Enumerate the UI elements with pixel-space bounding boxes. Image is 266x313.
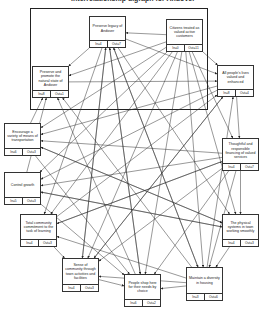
arrow-lives-to-services — [237, 97, 240, 138]
arrow-lives-to-growth — [41, 90, 217, 179]
in-count: In=3 — [187, 294, 204, 300]
arrow-citizens-to-learning — [51, 52, 172, 214]
in-count: In=0 — [167, 45, 184, 51]
node-label: All people's lives valued and enhanced — [218, 66, 253, 89]
node-citizens[interactable]: Citizens treated as valued active custom… — [166, 19, 203, 52]
node-growth[interactable]: Control growth In=5 Out=3 — [4, 172, 41, 205]
node-shop[interactable]: People shop here for their needs by choi… — [124, 274, 161, 307]
node-housing[interactable]: Maintain a diversity in housing In=3 Out… — [186, 267, 223, 301]
in-count: In=6 — [125, 300, 142, 306]
arrow-shop-to-natural — [58, 98, 136, 274]
node-services[interactable]: Thoughtful and responsible financing of … — [222, 138, 259, 171]
node-label: Preserve and promote the natural state o… — [33, 67, 68, 90]
node-counts: In=4 Out=3 — [63, 284, 98, 291]
node-counts: In=6 Out=2 — [125, 299, 160, 306]
node-counts: In=3 Out=6 — [187, 293, 222, 300]
node-counts: In=8 Out=4 — [218, 89, 253, 96]
arrow-natural-to-lives — [69, 81, 217, 82]
out-count: Out=7 — [240, 164, 258, 170]
arrow-citizens-to-shop — [145, 52, 182, 274]
node-label: Preserve legacy of Andover — [90, 17, 125, 40]
in-count: In=4 — [223, 164, 240, 170]
out-count: Out=2 — [142, 300, 160, 306]
in-count: In=5 — [5, 198, 22, 204]
arrow-housing-to-natural — [63, 98, 192, 267]
node-counts: In=4 Out=7 — [90, 40, 125, 47]
in-count: In=4 — [90, 41, 107, 47]
arrow-housing-to-legacy — [114, 48, 198, 267]
node-label: Thoughtful and responsible financing of … — [223, 139, 258, 163]
node-counts: In=4 Out=3 — [21, 239, 56, 246]
out-count: Out=3 — [22, 149, 40, 155]
node-counts: In=8 Out=1 — [33, 90, 68, 97]
out-count: Out=3 — [80, 285, 98, 291]
arrow-learning-to-lives — [57, 95, 217, 216]
out-count: Out=3 — [38, 240, 56, 246]
out-count: Out=1 — [50, 91, 68, 97]
in-count: In=8 — [33, 91, 50, 97]
out-count: Out=3 — [240, 240, 258, 246]
arrow-citizens-to-community — [88, 52, 177, 258]
out-count: Out=11 — [184, 45, 202, 51]
in-count: In=8 — [218, 90, 235, 96]
arrow-services-to-transport — [41, 141, 222, 153]
node-counts: In=4 Out=7 — [223, 163, 258, 170]
node-physical[interactable]: The physical systems in town working smo… — [222, 214, 259, 247]
node-label: People shop here for their needs by choi… — [125, 275, 160, 299]
node-label: Encourage a variety of means of transpor… — [5, 124, 40, 148]
arrow-physical-to-housing — [216, 247, 229, 267]
arrow-citizens-to-legacy — [126, 33, 166, 35]
node-natural[interactable]: Preserve and promote the natural state o… — [32, 66, 69, 98]
in-count: In=4 — [223, 240, 240, 246]
node-label: Sense of community through town activiti… — [63, 259, 98, 284]
out-count: Out=7 — [107, 41, 125, 47]
node-community[interactable]: Sense of community through town activiti… — [62, 258, 99, 292]
node-label: The physical systems in town working smo… — [223, 215, 258, 239]
arrow-learning-to-community — [54, 247, 64, 258]
node-label: Citizens treated as valued active custom… — [167, 20, 202, 44]
node-counts: In=4 Out=3 — [223, 239, 258, 246]
arrow-citizens-to-lives — [203, 52, 218, 65]
out-count: Out=3 — [22, 198, 40, 204]
node-lives[interactable]: All people's lives valued and enhanced I… — [217, 65, 254, 97]
node-learning[interactable]: Total community commitment to the task o… — [20, 214, 57, 247]
out-count: Out=4 — [235, 90, 253, 96]
node-transport[interactable]: Encourage a variety of means of transpor… — [4, 123, 41, 156]
node-label: Total community commitment to the task o… — [21, 215, 56, 239]
arrow-legacy-to-physical — [118, 48, 229, 214]
in-count: In=4 — [21, 240, 38, 246]
arrow-citizens-to-housing — [186, 52, 203, 267]
arrow-services-to-shop — [154, 171, 228, 274]
node-legacy[interactable]: Preserve legacy of Andover In=4 Out=7 — [89, 16, 126, 48]
arrow-legacy-to-natural — [69, 48, 90, 66]
node-label: Maintain a diversity in housing — [187, 268, 222, 293]
in-count: In=4 — [63, 285, 80, 291]
node-counts: In=5 Out=3 — [5, 197, 40, 204]
out-count: Out=6 — [204, 294, 222, 300]
node-counts: In=6 Out=3 — [5, 148, 40, 155]
arrow-community-to-shop — [99, 280, 124, 286]
node-label: Control growth — [5, 173, 40, 197]
node-counts: In=0 Out=11 — [167, 44, 202, 51]
in-count: In=6 — [5, 149, 22, 155]
arrow-community-to-legacy — [82, 48, 105, 258]
arrow-housing-to-shop — [161, 286, 186, 289]
